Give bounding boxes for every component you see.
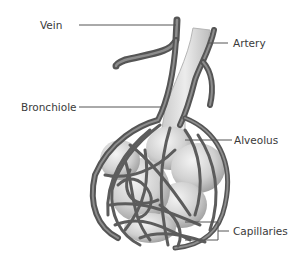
alveolus-label: Alveolus (234, 134, 278, 146)
alveolus-diagram: Vein Artery Bronchiole Alveolus Capillar… (0, 0, 302, 261)
bronchiole-label: Bronchiole (21, 101, 77, 113)
artery-label: Artery (233, 37, 266, 49)
capillaries-label: Capillaries (233, 225, 288, 237)
vein-label: Vein (40, 19, 62, 31)
